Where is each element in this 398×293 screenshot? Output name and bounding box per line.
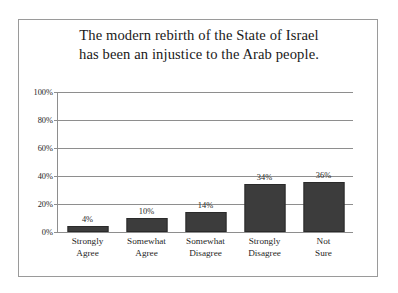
x-label-strongly-disagree: Strongly Disagree	[235, 236, 294, 259]
bar-group-strongly-agree[interactable]: 4%	[58, 92, 117, 232]
x-axis-category-labels: Strongly Agree Somewhat Agree Somewhat D…	[58, 236, 353, 270]
bar-value-label-2: 10%	[139, 207, 154, 216]
bars-layer: 4% 10% 14% 34% 36%	[58, 92, 353, 232]
x-label-not-sure-line-1: Not	[294, 236, 353, 248]
x-label-somewhat-agree: Somewhat Agree	[117, 236, 176, 259]
y-tick-label-20: 20%	[38, 200, 53, 209]
bar-value-label-1: 4%	[82, 215, 93, 224]
bar-value-label-5: 36%	[316, 171, 331, 180]
x-label-somewhat-agree-line-2: Agree	[117, 248, 176, 260]
y-tick-mark-40	[54, 176, 57, 177]
x-label-somewhat-agree-line-1: Somewhat	[117, 236, 176, 248]
bar-group-somewhat-agree[interactable]: 10%	[117, 92, 176, 232]
gridline-0: 0%	[57, 232, 353, 233]
chart-figure-frame: The modern rebirth of the State of Israe…	[18, 19, 378, 277]
x-label-somewhat-disagree-line-2: Disagree	[176, 248, 235, 260]
y-tick-mark-20	[54, 204, 57, 205]
bar-strongly-disagree[interactable]	[244, 184, 285, 232]
chart-title-line-1: The modern rebirth of the State of Israe…	[29, 26, 369, 45]
bar-value-label-3: 14%	[198, 201, 213, 210]
plot-area: 100% 80% 60% 40% 20% 0% 4%	[57, 92, 353, 232]
y-tick-label-40: 40%	[38, 172, 53, 181]
x-label-strongly-disagree-line-1: Strongly	[235, 236, 294, 248]
y-tick-label-0: 0%	[42, 228, 53, 237]
x-label-strongly-disagree-line-2: Disagree	[235, 248, 294, 260]
x-label-strongly-agree: Strongly Agree	[58, 236, 117, 259]
y-tick-label-80: 80%	[38, 116, 53, 125]
bar-group-strongly-disagree[interactable]: 34%	[235, 92, 294, 232]
bar-strongly-agree[interactable]	[67, 226, 108, 232]
x-label-strongly-agree-line-2: Agree	[58, 248, 117, 260]
y-tick-label-100: 100%	[33, 88, 53, 97]
bar-somewhat-agree[interactable]	[126, 218, 167, 232]
y-tick-label-60: 60%	[38, 144, 53, 153]
bar-group-not-sure[interactable]: 36%	[294, 92, 353, 232]
x-label-somewhat-disagree-line-1: Somewhat	[176, 236, 235, 248]
chart-title-line-2: has been an injustice to the Arab people…	[29, 45, 369, 64]
x-label-not-sure: Not Sure	[294, 236, 353, 259]
y-tick-mark-60	[54, 148, 57, 149]
y-tick-mark-0	[54, 232, 57, 233]
x-label-strongly-agree-line-1: Strongly	[58, 236, 117, 248]
bar-group-somewhat-disagree[interactable]: 14%	[176, 92, 235, 232]
chart-title: The modern rebirth of the State of Israe…	[29, 26, 369, 64]
x-label-not-sure-line-2: Sure	[294, 248, 353, 260]
bar-not-sure[interactable]	[303, 182, 344, 232]
bar-value-label-4: 34%	[257, 173, 272, 182]
bar-somewhat-disagree[interactable]	[185, 212, 226, 232]
x-label-somewhat-disagree: Somewhat Disagree	[176, 236, 235, 259]
y-tick-mark-80	[54, 120, 57, 121]
y-tick-mark-100	[54, 92, 57, 93]
